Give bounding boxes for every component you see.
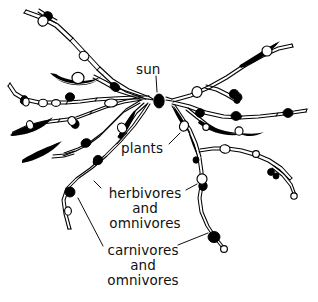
crescent-right-mid-2: [240, 132, 264, 136]
node-white-6: [52, 100, 61, 107]
node-white-15: [235, 127, 243, 135]
node-black-11: [283, 109, 293, 118]
node-white-5: [39, 99, 48, 107]
node-black-3: [65, 93, 74, 101]
node-black-10: [231, 112, 241, 121]
node-white-7: [23, 98, 29, 106]
label-herbivores-line-2: and: [104, 201, 186, 216]
node-white-18: [65, 207, 72, 215]
label-carnivores: carnivores and omnivores: [106, 243, 180, 288]
node-white-21: [203, 124, 209, 131]
crescent-upper-right-b: [239, 41, 280, 68]
node-black-19: [234, 97, 240, 104]
node-white-12: [192, 87, 202, 98]
node-black-7: [65, 187, 75, 197]
leader-plants-right: [169, 133, 180, 144]
leader-carnivores-left: [78, 198, 103, 246]
crescent-left-lower-b: [22, 141, 62, 163]
label-carnivores-line-3: omnivores: [106, 273, 180, 288]
label-plants: plants: [121, 141, 163, 156]
node-black-15: [208, 231, 220, 242]
node-black-5: [80, 137, 92, 148]
node-black-17: [273, 173, 279, 179]
figure-canvas: sun plants herbivores and omnivores carn…: [0, 0, 318, 302]
node-white-19: [221, 246, 228, 253]
node-white-20: [291, 193, 297, 199]
leader-herbivores-right: [186, 184, 197, 190]
label-sun-text: sun: [136, 61, 160, 77]
label-carnivores-line-1: carnivores: [106, 243, 180, 258]
node-white-17: [253, 151, 260, 158]
label-plants-text: plants: [121, 140, 163, 156]
node-black-9: [196, 109, 205, 117]
node-white-16: [219, 144, 230, 154]
leader-herbivores-left: [94, 181, 101, 188]
label-herbivores-line-1: herbivores: [104, 186, 186, 201]
leader-carnivores-right: [178, 233, 208, 245]
label-herbivores: herbivores and omnivores: [104, 186, 186, 231]
branch-right-lower-tail: [272, 166, 296, 196]
node-black-20: [93, 159, 99, 165]
node-white-14: [197, 174, 207, 184]
leader-sun: [156, 76, 157, 92]
node-white-3: [72, 72, 84, 83]
node-white-11: [262, 46, 272, 56]
label-herbivores-line-3: omnivores: [104, 216, 186, 231]
label-carnivores-line-2: and: [106, 258, 180, 273]
node-sun: [154, 94, 164, 108]
node-black-18: [193, 157, 199, 163]
branch-left-tail: [52, 151, 75, 158]
label-sun: sun: [136, 62, 160, 77]
